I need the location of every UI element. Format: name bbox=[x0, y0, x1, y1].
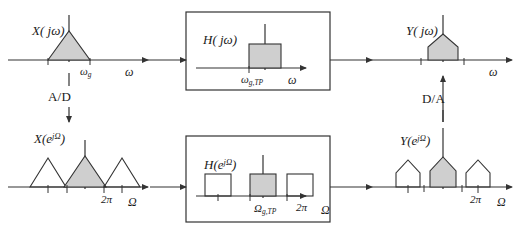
x-discrete-tick-label: 2π bbox=[101, 194, 112, 205]
da-converter-label: D/A bbox=[422, 92, 445, 105]
y-continuous-plot bbox=[372, 15, 512, 65]
h-continuous-axis-label: ω bbox=[288, 74, 296, 86]
h-discrete-axis-label: Ω bbox=[321, 204, 330, 216]
h-discrete-tick-label-main: Ωg,TP bbox=[254, 203, 276, 216]
x-discrete-label: X(ejΩ) bbox=[34, 132, 65, 145]
y-discrete-tick-label: 2π bbox=[470, 194, 481, 205]
y-continuous-label: Y( jω) bbox=[406, 24, 438, 37]
y-continuous-axis-label: ω bbox=[489, 66, 497, 78]
x-continuous-tick-label: ωg bbox=[80, 66, 92, 79]
y-discrete-plot bbox=[372, 140, 512, 193]
h-continuous-label: H( jω) bbox=[203, 33, 237, 46]
h-continuous-tick-label: ωg,TP bbox=[241, 74, 263, 87]
x-continuous-label: X( jω) bbox=[32, 24, 65, 37]
x-discrete-axis-label: Ω bbox=[128, 196, 137, 208]
h-discrete-label: H(ejΩ) bbox=[204, 158, 236, 171]
h-discrete-tick-label-2pi: 2π bbox=[296, 202, 307, 213]
ad-converter-label: A/D bbox=[48, 90, 71, 103]
y-discrete-axis-label: Ω bbox=[497, 196, 506, 208]
x-continuous-plot bbox=[8, 15, 148, 65]
signal-flow-diagram: X( jω) ωg ω H( jω) ωg,TP ω Y( jω) ω A/D … bbox=[0, 0, 527, 244]
y-discrete-label: Y(ejΩ) bbox=[400, 134, 430, 147]
x-continuous-axis-label: ω bbox=[125, 66, 133, 78]
x-discrete-plot bbox=[8, 140, 148, 193]
